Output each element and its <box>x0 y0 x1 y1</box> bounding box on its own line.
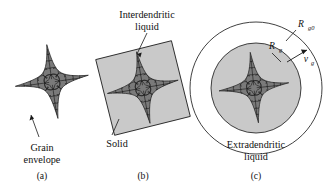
panel-b: Interdendritic liquid Solid (b) <box>96 9 191 182</box>
panel-caption-c: (c) <box>251 170 262 182</box>
extradendritic-liquid-label-line1: Extradendritic <box>227 139 286 150</box>
panel-a: Grain envelope (a) <box>10 40 93 182</box>
vg-symbol: v <box>304 53 309 64</box>
outer-radius-label: R g0 <box>297 18 315 31</box>
grain-envelope-label-line1: Grain <box>30 142 53 153</box>
panel-caption-b: (b) <box>137 170 148 182</box>
Rg0-symbol: R <box>297 18 304 29</box>
grain-envelope-shape <box>10 40 93 124</box>
Rg0-subscript: g0 <box>308 24 315 31</box>
grain-envelope-label-line2: envelope <box>24 154 61 165</box>
extradendritic-liquid-label-line2: liquid <box>244 151 268 162</box>
panel-caption-a: (a) <box>37 170 48 182</box>
solid-label: Solid <box>106 138 128 149</box>
Rg-symbol: R <box>268 40 275 51</box>
interdendritic-liquid-label-line2: liquid <box>135 21 159 32</box>
grain-envelope-arrowhead <box>30 115 35 120</box>
panel-c: R g0 R g v g Extradendritic liquid (c) <box>190 18 322 182</box>
interdendritic-liquid-label-line1: Interdendritic <box>119 9 175 20</box>
dendritic-grain-figure: Grain envelope (a) Interdendritic liquid… <box>0 0 333 186</box>
